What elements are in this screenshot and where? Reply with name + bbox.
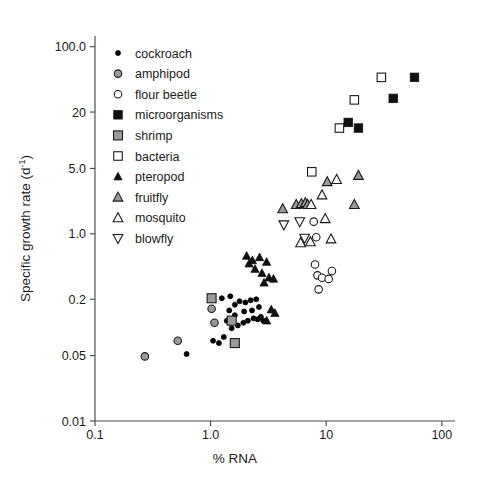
legend-label: cockroach <box>135 47 192 61</box>
legend-item-pteropod: pteropod <box>114 170 184 184</box>
legend-item-bacteria: bacteria <box>114 150 180 164</box>
data-point <box>229 326 234 331</box>
legend-item-microorganisms: microorganisms <box>114 108 223 122</box>
data-point <box>242 309 247 314</box>
data-point <box>243 300 248 305</box>
legend-marker-circle-icon <box>114 70 122 78</box>
data-point <box>245 318 250 323</box>
data-point <box>248 298 253 303</box>
data-point <box>243 252 251 260</box>
series-pteropod <box>243 252 279 324</box>
data-point <box>315 286 323 294</box>
data-point <box>141 353 149 361</box>
data-point <box>279 221 289 230</box>
x-tick-label: 100 <box>431 428 452 442</box>
legend-item-shrimp: shrimp <box>114 129 173 143</box>
data-point <box>308 168 317 177</box>
data-point <box>410 73 419 82</box>
legend-marker-square-icon <box>114 131 123 140</box>
data-point <box>377 73 386 82</box>
legend-item-blowfly: blowfly <box>113 232 174 246</box>
data-point <box>335 124 344 133</box>
legend-item-flour-beetle: flour beetle <box>114 88 197 102</box>
data-point <box>350 96 359 105</box>
data-point <box>219 296 224 301</box>
data-point <box>349 200 359 209</box>
data-point <box>256 305 261 310</box>
data-point <box>354 124 363 133</box>
legend-item-cockroach: cockroach <box>116 47 193 61</box>
legend-item-fruitfly: fruitfly <box>113 191 169 205</box>
series-blowfly <box>279 218 309 244</box>
data-point <box>208 305 216 313</box>
data-point <box>278 204 288 213</box>
legend-marker-triangle-up-icon <box>114 172 122 180</box>
y-axis-title: Specific growth rate (d-1) <box>17 155 33 302</box>
legend-item-amphipod: amphipod <box>114 67 190 81</box>
legend-marker-triangle-up-icon <box>113 192 123 201</box>
y-tick-label: 0.2 <box>69 293 86 307</box>
data-point <box>211 338 216 343</box>
data-point <box>344 118 353 127</box>
data-point <box>228 294 233 299</box>
y-tick-label: 20 <box>72 106 86 120</box>
legend-label: flour beetle <box>135 88 197 102</box>
y-tick-label: 1.0 <box>69 227 86 241</box>
legend-label: bacteria <box>135 150 180 164</box>
legend: cockroachamphipodflour beetlemicroorgani… <box>113 47 223 246</box>
series-flour-beetle <box>310 218 336 293</box>
data-point <box>255 253 263 261</box>
data-point <box>322 177 332 186</box>
data-point <box>332 174 342 183</box>
series-amphipod <box>141 305 218 360</box>
data-point <box>227 308 232 313</box>
data-point <box>328 267 336 275</box>
legend-marker-triangle-down-icon <box>113 235 123 244</box>
plot-canvas: 0.010.050.21.05.020100.00.11.010100 cock… <box>0 0 481 484</box>
data-point <box>317 190 327 199</box>
data-point <box>320 214 330 223</box>
data-point <box>227 316 236 325</box>
legend-label: pteropod <box>135 170 184 184</box>
data-point <box>310 218 318 226</box>
data-point <box>311 261 319 269</box>
data-point <box>230 339 239 348</box>
legend-marker-circle-icon <box>114 90 122 98</box>
data-point <box>325 275 333 283</box>
legend-marker-circle-icon <box>116 51 121 56</box>
legend-marker-square-icon <box>114 111 123 120</box>
data-point <box>326 234 336 243</box>
series-cockroach <box>184 294 266 357</box>
legend-label: blowfly <box>135 232 174 246</box>
data-point <box>216 341 221 346</box>
y-axis-title-tail: ) <box>18 155 33 160</box>
data-point <box>389 94 398 103</box>
legend-marker-triangle-up-icon <box>113 213 123 222</box>
data-point <box>313 233 321 241</box>
data-point <box>263 258 271 266</box>
legend-label: shrimp <box>135 129 173 143</box>
data-point <box>211 319 219 327</box>
y-tick-label: 0.01 <box>62 415 86 429</box>
x-tick-label: 1.0 <box>202 428 219 442</box>
y-tick-label: 100.0 <box>55 40 86 54</box>
legend-item-mosquito: mosquito <box>113 211 186 225</box>
data-point <box>249 308 254 313</box>
data-point <box>354 170 364 179</box>
y-axis-title-base: Specific growth rate (d <box>18 168 33 302</box>
y-tick-label: 0.05 <box>62 349 86 363</box>
legend-label: fruitfly <box>135 191 169 205</box>
legend-label: microorganisms <box>135 108 223 122</box>
data-point <box>237 299 242 304</box>
data-point <box>207 294 216 303</box>
data-point <box>184 351 189 356</box>
data-point <box>254 297 259 302</box>
y-axis-title-superscript: -1 <box>17 160 27 168</box>
scatter-plot-figure: 0.010.050.21.05.020100.00.11.010100 cock… <box>0 0 481 484</box>
y-tick-label: 5.0 <box>69 162 86 176</box>
x-tick-label: 10 <box>319 428 333 442</box>
data-point <box>232 302 237 307</box>
legend-label: mosquito <box>135 211 186 225</box>
legend-marker-square-icon <box>114 152 123 161</box>
data-point <box>174 337 182 345</box>
